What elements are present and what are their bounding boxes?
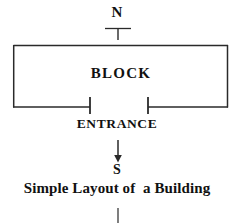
south-arrow-icon: [114, 140, 122, 163]
entrance-label: ENTRANCE: [0, 117, 234, 131]
figure-caption: Simple Layout of a Building: [0, 181, 234, 196]
block-label: BLOCK: [14, 66, 228, 81]
entrance-gap: [90, 97, 148, 114]
north-label: N: [0, 5, 234, 20]
north-marker-icon: [105, 29, 131, 41]
south-label: S: [0, 163, 234, 177]
